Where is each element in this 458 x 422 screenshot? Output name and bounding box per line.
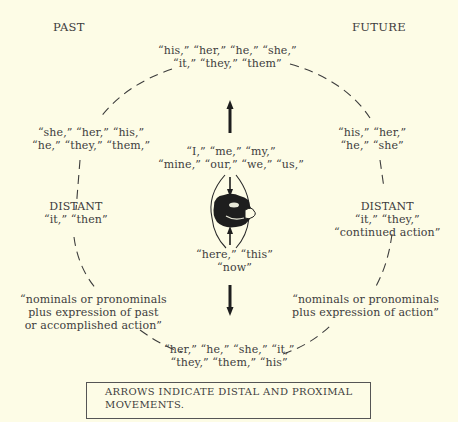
upper-left-pronouns: “she,” “her,” “his,” “he,” “they,” “them… [32, 126, 150, 152]
lower-left-description: “nominals or pronominals plus expression… [20, 293, 167, 332]
header-past: PAST [53, 21, 85, 34]
lower-right-description: “nominals or pronominals plus expression… [292, 293, 439, 319]
center-here-now: “here,” “this” “now” [196, 248, 273, 274]
top-pronouns: “his,” “her,” “he,” “she,” “it,” “they,”… [158, 44, 297, 70]
bottom-pronouns: “her,” “he,” “she,” “it,” “they,” “them,… [164, 343, 294, 369]
legend-line-1: ARROWS INDICATE DISTAL AND PROXIMAL [105, 386, 370, 399]
person-globe-icon [211, 175, 255, 248]
right-distant: DISTANT “it,” “they,” “continued action” [334, 200, 440, 239]
upper-right-pronouns: “his,” “her,” “he,” “she” [338, 126, 406, 152]
down-arrow-icon [227, 285, 234, 316]
legend-line-2: MOVEMENTS. [105, 399, 370, 412]
header-future: FUTURE [352, 21, 406, 34]
legend-box: ARROWS INDICATE DISTAL AND PROXIMAL MOVE… [86, 382, 371, 419]
left-distant: DISTANT “it,” “then” [44, 200, 108, 226]
center-self-pronouns: “I,” “me,” “my,” “mine,” “our,” “we,” “u… [158, 145, 304, 171]
up-arrow-icon [227, 100, 234, 133]
